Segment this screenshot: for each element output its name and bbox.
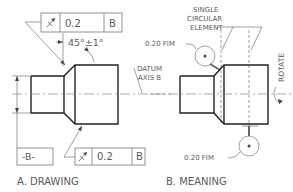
fcf-bottom-tolerance: 0.2 [97,151,113,162]
fim-label-top: 0.20 FIM [145,40,175,48]
caption-drawing: A. DRAWING [17,176,79,187]
fcf-top-datum: B [109,18,116,29]
fim-leader-top [186,44,196,49]
rotate-label: ROTATE [277,53,286,82]
note-line-3: ELEMENT [190,24,223,32]
fim-leader-bottom [228,152,240,158]
leader-line-bottom [64,126,82,157]
panel-b-meaning: SINGLE CIRCULAR ELEMENT 0.20 FIM ROTATE [145,6,293,187]
note-leader-slant [251,27,262,50]
runout-arrow-icon [47,18,55,27]
caption-meaning: B. MEANING [166,176,227,187]
fcf-top-tolerance: 0.2 [65,18,81,29]
runout-diagram: 0.2 B 45°±1° DATUM AXIS B -B- [0,0,293,192]
datum-label: DATUM [137,65,162,73]
note-leader-slant [222,27,233,50]
note-line-1: SINGLE [193,6,219,14]
angle-dimension: 45°±1° [68,37,104,48]
leader-line-top [25,22,65,65]
datum-feature-label: -B- [22,151,35,162]
runout-arrow-icon [79,152,87,161]
feature-control-frame-bottom: 0.2 B [75,148,145,165]
note-line-2: CIRCULAR [187,15,222,23]
datum-feature-symbol: -B- [17,148,53,165]
angle-arc [89,52,94,62]
dial-indicator-bottom-icon [239,136,259,156]
datum-label-axis: AXIS B [138,74,161,82]
fim-label-bottom: 0.20 FIM [184,154,214,162]
dial-indicator-top-icon [195,46,220,70]
part-outline-b [180,65,268,124]
feature-control-frame-top: 0.2 B [41,13,122,32]
fcf-bottom-datum: B [136,151,143,162]
part-outline-a [31,65,118,124]
